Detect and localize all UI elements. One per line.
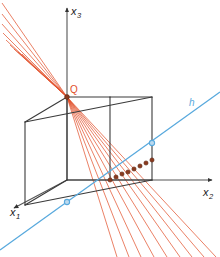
cube-edge-back-top: [25, 97, 152, 122]
projection-ray-lower-1: [67, 97, 129, 257]
h-point-front: [64, 199, 69, 204]
ray-fan-upper: [2, 3, 67, 97]
point-q-dot: [65, 95, 70, 100]
x-two-axis-label: x2: [202, 186, 214, 201]
x-two-axis-label-subscript: 2: [208, 192, 214, 201]
projection-ray-lower-5: [67, 97, 180, 257]
x-three-axis-label-subscript: 3: [77, 11, 82, 20]
projection-ray-upper-1: [2, 14, 67, 97]
x-one-axis-label: x1: [9, 206, 20, 221]
axes-group: [14, 8, 212, 208]
x-one-axis-label-subscript: 1: [16, 212, 20, 221]
figure-canvas: x1x2x3Qh: [0, 0, 220, 257]
projection-diagram: x1x2x3Qh: [0, 0, 220, 257]
x-three-axis-label: x3: [70, 5, 82, 20]
ray-intersection-dot-5: [138, 164, 142, 168]
projection-ray-upper-2: [2, 24, 67, 97]
x-two-axis-label-base: x: [202, 186, 209, 198]
ray-intersection-dot-7: [150, 158, 154, 162]
ray-intersection-dot-6: [144, 161, 148, 165]
projection-ray-upper-0: [2, 3, 67, 97]
ray-intersection-dot-4: [132, 167, 136, 171]
h-point-back: [149, 140, 154, 145]
ray-intersection-dot-2: [120, 172, 124, 176]
x-one-axis-label-base: x: [9, 206, 16, 218]
ray-intersection-dot-0: [108, 178, 112, 182]
projection-ray-lower-7: [67, 97, 204, 257]
projection-ray-upper-8: [22, 54, 67, 97]
ray-intersection-dot-1: [114, 175, 118, 179]
line-h-label: h: [189, 97, 195, 108]
ray-intersection-dot-3: [126, 170, 130, 174]
cube-wireframe: [25, 97, 152, 205]
x-three-axis-label-base: x: [70, 5, 77, 17]
ray-fan-lower: [67, 97, 216, 257]
point-q-label: Q: [70, 84, 78, 95]
point-q-group: [65, 95, 70, 100]
projection-ray-lower-8: [67, 97, 216, 257]
